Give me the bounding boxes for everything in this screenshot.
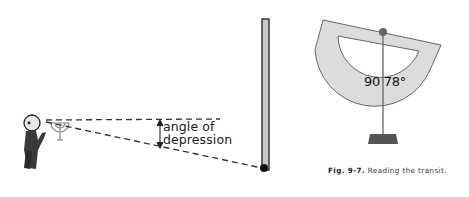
observer-figure [24,115,46,169]
vertical-pole [260,19,269,172]
figure-9-7: angle of depression 90 78° Fig. 9-7. Rea… [0,0,469,197]
angle-of-depression-label: angle of depression [163,120,232,146]
protractor-reading: 90 78° [364,74,406,89]
figure-caption: Fig. 9-7. Reading the transit. [328,166,458,177]
